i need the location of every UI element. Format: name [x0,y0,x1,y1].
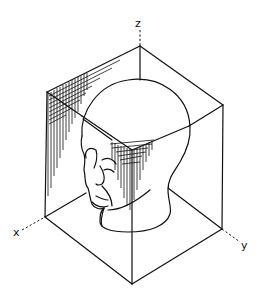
eyebrow [102,158,116,164]
edge-top-front-left-b [82,116,132,150]
edge-top-front-right-b [132,126,189,150]
head-drawing [81,79,190,232]
edge-bottom-back-right [168,188,222,229]
x-axis-line [22,217,45,230]
edge-top-back-left [47,46,140,92]
edge-bottom-front-left [45,217,132,284]
y-axis-label: y [241,239,248,252]
edge-top-front-right-a [189,105,223,126]
jaw-line [108,190,150,210]
edge-right-vertical [222,105,223,229]
mouth [96,196,108,200]
x-axis-label: x [13,226,20,239]
edge-left-vertical [45,92,47,217]
nose [96,166,104,185]
left-face-hatching [48,60,120,196]
head-in-cube-diagram: z x y [0,0,262,298]
edge-bottom-back-left [45,193,86,217]
edge-top-front-left-double [83,119,112,140]
edge-bottom-front-right [132,229,222,284]
eye [104,169,114,172]
axis-extensions [22,30,240,242]
edge-top-back-right [140,46,223,105]
ear [86,148,97,168]
cheek-line [102,186,112,206]
y-axis-line [222,229,240,242]
z-axis-label: z [135,17,141,30]
